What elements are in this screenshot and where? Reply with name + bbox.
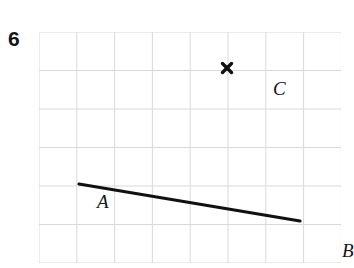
question-number: 6: [8, 28, 20, 50]
point-label-c: C: [273, 79, 286, 98]
geometry-layer: [39, 32, 341, 263]
point-label-b: B: [342, 241, 354, 260]
line-segment-ab: [79, 184, 300, 221]
grid-panel: A B C: [39, 32, 341, 263]
x-mark-icon: [223, 64, 232, 73]
point-label-a: A: [97, 192, 109, 211]
